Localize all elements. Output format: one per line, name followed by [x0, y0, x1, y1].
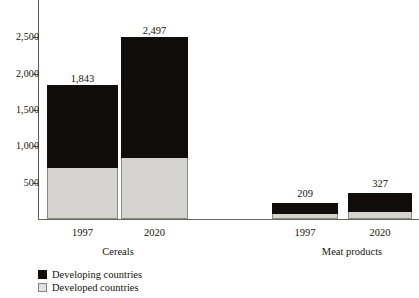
- legend-item-developing[interactable]: Developing countries: [38, 268, 142, 281]
- chart-canvas: 2,500 2,000 1,500 1,000 500 1,843 2,497 …: [0, 0, 419, 298]
- bar-value-meat-1997: 209: [272, 188, 338, 199]
- x-label-cereals-2020: 2020: [121, 227, 188, 238]
- y-tick-2500: 2,500: [0, 37, 39, 38]
- bar-value-cereals-2020: 2,497: [121, 25, 188, 36]
- y-tick-label-500: 500: [5, 178, 39, 188]
- legend-item-developed[interactable]: Developed countries: [38, 281, 142, 294]
- bar-segment-developing: [272, 203, 338, 214]
- legend-label-developed: Developed countries: [52, 282, 139, 293]
- y-tick-1500: 1,500: [0, 110, 39, 111]
- y-tick-1000: 1,000: [0, 146, 39, 147]
- x-axis-line: [38, 219, 419, 220]
- bar-cereals-1997[interactable]: [47, 85, 118, 219]
- group-label-meat-products: Meat products: [297, 246, 407, 257]
- legend-label-developing: Developing countries: [52, 269, 142, 280]
- x-label-meat-2020: 2020: [348, 227, 412, 238]
- group-label-cereals: Cereals: [73, 246, 163, 257]
- bar-value-cereals-1997: 1,843: [47, 73, 118, 84]
- x-label-meat-1997: 1997: [272, 227, 338, 238]
- bar-meat-2020[interactable]: [348, 193, 412, 219]
- bar-value-meat-2020: 327: [348, 178, 412, 189]
- y-tick-label-2000: 2,000: [5, 69, 39, 79]
- y-tick-label-2500: 2,500: [5, 32, 39, 42]
- legend-swatch-developed-icon: [38, 283, 47, 292]
- bar-segment-developing: [47, 85, 118, 168]
- legend-swatch-developing-icon: [38, 270, 47, 279]
- bar-cereals-2020[interactable]: [121, 37, 188, 219]
- bar-segment-developed: [272, 214, 338, 219]
- y-tick-label-1500: 1,500: [5, 105, 39, 115]
- y-tick-2000: 2,000: [0, 74, 39, 75]
- legend: Developing countries Developed countries: [38, 268, 142, 294]
- bar-segment-developed: [121, 158, 188, 219]
- y-tick-label-1000: 1,000: [5, 141, 39, 151]
- x-label-cereals-1997: 1997: [47, 227, 118, 238]
- bar-meat-1997[interactable]: [272, 203, 338, 219]
- bar-segment-developing: [121, 37, 188, 158]
- bar-segment-developing: [348, 193, 412, 212]
- y-tick-500: 500: [0, 183, 39, 184]
- bar-segment-developed: [47, 168, 118, 219]
- bar-segment-developed: [348, 212, 412, 219]
